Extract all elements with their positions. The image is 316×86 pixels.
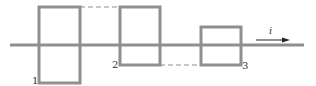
loop-label: 1 <box>32 75 38 86</box>
current-arrow: i <box>256 25 290 43</box>
diagram-canvas: 123 i <box>0 0 316 86</box>
loop-rect <box>120 7 160 65</box>
dashed-links <box>80 7 201 65</box>
loop-label: 3 <box>242 60 248 71</box>
loop-label: 2 <box>112 59 118 70</box>
loop-2: 2 <box>112 7 160 70</box>
current-label: i <box>269 25 272 36</box>
arrow-head-icon <box>282 38 290 43</box>
loop-3: 3 <box>201 27 248 71</box>
